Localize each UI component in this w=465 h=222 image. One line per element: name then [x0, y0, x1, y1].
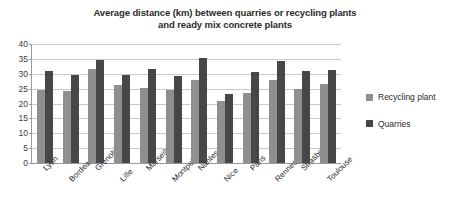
legend-swatch-icon [366, 120, 373, 127]
y-tick-label: 25 [19, 84, 28, 93]
bar-chart: Average distance (km) between quarries o… [0, 0, 465, 222]
bar [277, 61, 285, 163]
x-label-slot: Montpellier [160, 165, 186, 221]
y-tick-label: 10 [19, 129, 28, 138]
bar [199, 58, 207, 163]
bar-group [32, 44, 58, 163]
x-label-slot: Lille [108, 165, 134, 221]
x-label-slot: Grenoble [83, 165, 109, 221]
x-label-slot: Rennes [263, 165, 289, 221]
bar [148, 69, 156, 163]
bar [243, 93, 251, 163]
bar-group [161, 44, 187, 163]
x-label-slot: Strasbourg [289, 165, 315, 221]
bar [269, 80, 277, 163]
y-tick-label: 5 [23, 144, 28, 153]
bar [63, 91, 71, 163]
bar-group [212, 44, 238, 163]
x-label-slot: Lyon [31, 165, 57, 221]
bar [96, 60, 104, 163]
bar-group [84, 44, 110, 163]
bar-group [135, 44, 161, 163]
bar [114, 85, 122, 163]
chart-title-line-1: Average distance (km) between quarries o… [60, 7, 390, 19]
bar-group [109, 44, 135, 163]
y-tick-label: 15 [19, 114, 28, 123]
legend-label: Quarries [378, 120, 411, 129]
bar [122, 75, 130, 163]
bar-group [58, 44, 84, 163]
chart-title-line-2: and ready mix concrete plants [60, 19, 390, 31]
bar [320, 84, 328, 163]
y-tick-label: 0 [23, 159, 28, 168]
plot-area: 0510152025303540 [31, 44, 341, 164]
bar [174, 76, 182, 163]
legend-label: Recycling plant [378, 93, 436, 102]
y-tick-label: 20 [19, 99, 28, 108]
bar [45, 71, 53, 163]
bar [191, 80, 199, 163]
bar-group [315, 44, 341, 163]
bar [217, 101, 225, 163]
x-label-slot: Marseille [134, 165, 160, 221]
bar [71, 75, 79, 163]
x-label-slot: Nice [212, 165, 238, 221]
bar [166, 90, 174, 163]
x-label-slot: Toulouse [315, 165, 341, 221]
x-axis-label: Lille [119, 168, 135, 184]
x-label-slot: Nantes [186, 165, 212, 221]
bar [302, 71, 310, 163]
y-tick-label: 30 [19, 70, 28, 79]
legend-item[interactable]: Quarries [366, 120, 462, 129]
bar [294, 89, 302, 163]
y-tick-mark [29, 163, 32, 164]
bar-group [238, 44, 264, 163]
x-label-slot: Paris [238, 165, 264, 221]
bar [140, 88, 148, 163]
bar [251, 72, 259, 163]
x-axis-labels: LyonBordeauxGrenobleLilleMarseilleMontpe… [31, 165, 341, 221]
legend-item[interactable]: Recycling plant [366, 93, 462, 102]
bar [225, 94, 233, 163]
bar [328, 70, 336, 163]
chart-title: Average distance (km) between quarries o… [60, 7, 390, 31]
y-tick-label: 35 [19, 55, 28, 64]
chart-legend: Recycling plantQuarries [366, 93, 462, 146]
bar-group [264, 44, 290, 163]
legend-swatch-icon [366, 94, 373, 101]
bars-layer [32, 44, 341, 163]
y-tick-label: 40 [19, 40, 28, 49]
x-label-slot: Bordeaux [57, 165, 83, 221]
bar [88, 69, 96, 163]
bar [37, 90, 45, 163]
bar-group [187, 44, 213, 163]
bar-group [290, 44, 316, 163]
